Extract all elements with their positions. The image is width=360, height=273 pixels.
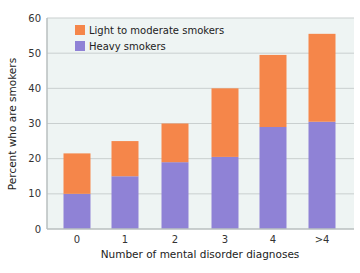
bar-segment <box>309 122 336 229</box>
x-tick-label: >4 <box>315 234 330 245</box>
x-tick-label: 2 <box>172 234 178 245</box>
bar-segment <box>260 55 287 127</box>
y-axis-ticks: 0102030405060 <box>28 13 41 235</box>
bar-segment <box>64 194 91 229</box>
legend-swatch-heavy <box>75 41 85 51</box>
y-tick-label: 10 <box>28 188 41 199</box>
bar-segment <box>162 162 189 229</box>
bar-segment <box>112 176 139 229</box>
x-tick-label: 0 <box>74 234 80 245</box>
bar-segment <box>64 153 91 193</box>
legend-label-light: Light to moderate smokers <box>89 25 224 36</box>
x-tick-label: 4 <box>270 234 276 245</box>
y-tick-label: 40 <box>28 83 41 94</box>
bar-segment <box>162 124 189 163</box>
bar-segment <box>260 127 287 229</box>
y-tick-label: 50 <box>28 48 41 59</box>
x-axis-ticks: 01234>4 <box>74 234 330 245</box>
bar-segment <box>112 141 139 176</box>
y-tick-label: 30 <box>28 118 41 129</box>
bar-segment <box>212 88 239 157</box>
y-tick-label: 20 <box>28 153 41 164</box>
y-tick-label: 0 <box>35 224 41 235</box>
bar-segment <box>309 34 336 122</box>
x-tick-label: 1 <box>122 234 128 245</box>
x-tick-label: 3 <box>222 234 228 245</box>
bar-segment <box>212 157 239 229</box>
stacked-bar-chart: 0102030405060 01234>4 Light to moderate … <box>0 0 360 273</box>
legend-label-heavy: Heavy smokers <box>89 41 166 52</box>
y-axis-title: Percent who are smokers <box>6 58 18 190</box>
x-axis-title: Number of mental disorder diagnoses <box>101 248 300 260</box>
y-tick-label: 60 <box>28 13 41 24</box>
legend-swatch-light <box>75 25 85 35</box>
